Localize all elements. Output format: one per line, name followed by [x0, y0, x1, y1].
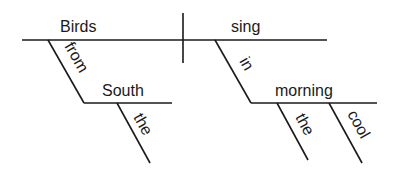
subject-preposition-word: from: [61, 39, 92, 75]
verb-prep-object-modifier-1-word: the: [292, 110, 317, 138]
sentence-diagram: Birds sing from South the in morning the…: [0, 0, 399, 172]
subject-prep-object-word: South: [102, 82, 144, 99]
verb-preposition-word: in: [236, 54, 257, 73]
verb-prep-object-word: morning: [275, 82, 333, 99]
subject-word: Birds: [60, 18, 96, 35]
verb-prep-object-modifier-2-word: cool: [344, 107, 373, 141]
verb-word: sing: [231, 18, 260, 35]
